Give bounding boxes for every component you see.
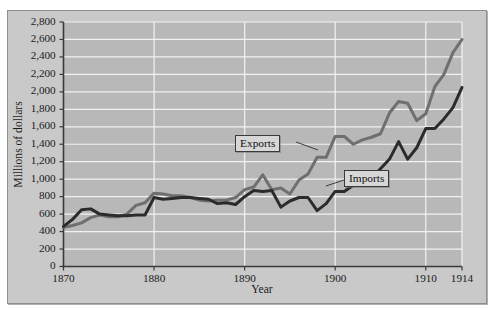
y-tick-label: 2,600 — [12, 32, 56, 44]
series-label-exports: Exports — [235, 135, 280, 152]
x-tick-label: 1900 — [312, 272, 358, 284]
y-tick-label: 600 — [12, 207, 56, 219]
y-tick-label: 2,400 — [12, 49, 56, 61]
x-tick-label: 1890 — [222, 272, 268, 284]
x-tick-label: 1914 — [439, 272, 485, 284]
chart-figure: 2,8002,6002,4002,2002,0001,8001,6001,400… — [0, 0, 496, 318]
y-tick-label: 2,800 — [12, 15, 56, 27]
x-tick-label: 1880 — [131, 272, 177, 284]
chart-plot — [0, 0, 496, 318]
y-tick-label: 400 — [12, 224, 56, 236]
y-tick-label: 200 — [12, 242, 56, 254]
x-tick-label: 1870 — [41, 272, 87, 284]
y-tick-label: 0 — [12, 259, 56, 271]
y-tick-label: 2,200 — [12, 67, 56, 79]
x-axis-title: Year — [212, 283, 312, 296]
y-axis-title: Millions of dollars — [12, 85, 25, 205]
series-label-imports: Imports — [344, 170, 389, 187]
